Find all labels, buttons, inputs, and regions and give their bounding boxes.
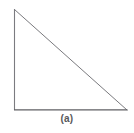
figure-panel-a: (a) [0, 0, 134, 133]
figure-caption: (a) [0, 112, 134, 125]
